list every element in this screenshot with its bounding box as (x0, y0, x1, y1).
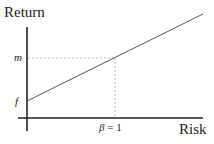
x-axis-label: Risk (179, 121, 207, 138)
tick-m: m (14, 51, 22, 63)
tick-f: f (15, 95, 18, 107)
y-axis-label: Return (4, 4, 45, 21)
tick-beta: β = 1 (99, 121, 122, 133)
